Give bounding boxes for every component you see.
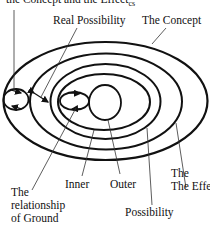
effect-text: The Effect (171, 180, 210, 192)
label-the-concept: The Concept (142, 14, 201, 27)
label-relationship-line3: of Ground (11, 212, 59, 225)
label-possibility: Possibility (125, 206, 174, 219)
label-the-effect: The Effectcs (171, 180, 210, 198)
ellipse-the-effect (30, 54, 182, 150)
loop-arrow-bottom-icon (72, 109, 82, 110)
ellipse-real-possibility (58, 74, 150, 130)
leader-the-concept (152, 28, 166, 44)
loop-arrow-top-icon (68, 93, 80, 94)
leader-real-possibility (41, 28, 77, 97)
title-text: the Concept and the Effect (6, 0, 128, 5)
real-possibility-double-arrow-icon (34, 93, 48, 102)
label-real-possibility: Real Possibility (53, 14, 126, 27)
ellipse-possibility (51, 64, 161, 139)
label-inner: Inner (65, 178, 89, 191)
label-relationship-line2: relationship (11, 199, 65, 212)
left-loop-arrow-bottom-icon (12, 106, 22, 109)
label-outer: Outer (110, 178, 136, 191)
inner-circle (89, 85, 121, 120)
ground-loop (60, 92, 89, 110)
label-the-effect-line1: The (171, 167, 189, 180)
title-subscript: cs (128, 0, 135, 8)
label-relationship-line1: The (11, 186, 29, 199)
title-partial: the Concept and the Effectcs (6, 0, 135, 11)
left-loop-arrow-top-icon (11, 90, 21, 93)
ellipse-the-concept (4, 42, 208, 160)
